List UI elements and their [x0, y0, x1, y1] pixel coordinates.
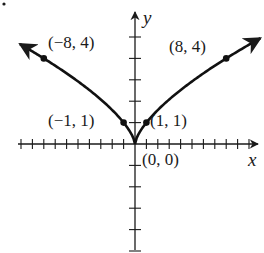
point-label-1-1: (1, 1) — [150, 111, 187, 130]
stray-dot — [2, 2, 5, 5]
point-label-neg1-1: (−1, 1) — [48, 111, 94, 130]
x-axis-label: x — [247, 149, 257, 170]
data-point — [41, 55, 48, 62]
point-label-neg8-4: (−8, 4) — [48, 33, 94, 52]
data-point — [223, 55, 230, 62]
graph-canvas: y x (−8, 4) (8, 4) (−1, 1) (1, 1) (0, 0) — [0, 0, 264, 253]
y-axis-label: y — [141, 7, 152, 28]
point-label-8-4: (8, 4) — [169, 37, 206, 56]
point-label-origin: (0, 0) — [142, 150, 179, 169]
data-point — [143, 119, 150, 126]
data-point — [120, 119, 127, 126]
